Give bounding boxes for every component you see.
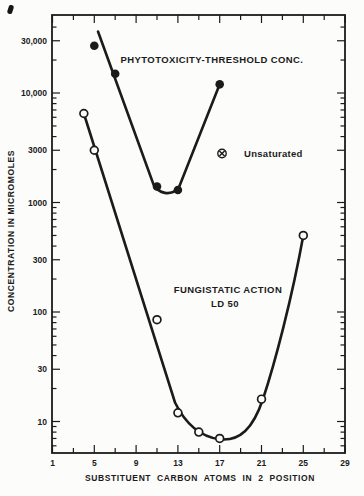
fungistatic-point xyxy=(80,110,88,118)
y-tick-label: 10 xyxy=(38,417,48,427)
y-tick-label: 10,000 xyxy=(21,88,47,98)
x-tick-label: 5 xyxy=(92,458,97,468)
y-axis-title: CONCENTRATION IN MICROMOLES xyxy=(6,150,16,312)
phytotoxicity-point xyxy=(90,41,99,50)
legend: Unsaturated xyxy=(218,148,303,159)
y-tick-label: 300 xyxy=(33,255,47,265)
fungistatic-point xyxy=(174,409,182,417)
y-tick-label: 3000 xyxy=(28,145,47,155)
x-tick-label: 21 xyxy=(257,458,267,468)
plot-area: 159131721252910301003001000300010,00030,… xyxy=(21,15,350,468)
phytotoxicity-point xyxy=(174,186,183,195)
fungistatic-point xyxy=(153,316,161,324)
phytotoxicity-point xyxy=(153,182,162,191)
legend-unsaturated-label: Unsaturated xyxy=(244,148,303,159)
fungistatic-point xyxy=(90,146,98,154)
x-tick-label: 1 xyxy=(50,458,55,468)
fungistatic-ld50-label: LD 50 xyxy=(211,298,239,309)
chart: 159131721252910301003001000300010,00030,… xyxy=(0,0,364,496)
fungistatic-point xyxy=(299,232,307,240)
x-axis-title: SUBSTITUENT CARBON ATOMS IN 2 POSITION xyxy=(85,473,315,483)
y-tick-label: 30 xyxy=(38,364,48,374)
x-tick-label: 25 xyxy=(299,458,309,468)
x-tick-label: 29 xyxy=(340,458,350,468)
phytotoxicity-point xyxy=(215,80,224,89)
y-tick-label: 1000 xyxy=(28,198,47,208)
x-tick-label: 13 xyxy=(173,458,183,468)
fungistatic-curve xyxy=(84,113,303,439)
y-tick-label: 30,000 xyxy=(21,36,47,46)
circled-x-marker-icon xyxy=(218,149,226,157)
fungistatic-point xyxy=(258,395,266,403)
y-tick-label: 100 xyxy=(33,307,47,317)
phytotoxicity-series-label: PHYTOTOXICITY-THRESHOLD CONC. xyxy=(121,54,304,65)
fungistatic-point xyxy=(195,428,203,436)
fungistatic-series-label: FUNGISTATIC ACTION xyxy=(174,284,282,295)
x-tick-label: 17 xyxy=(215,458,225,468)
phytotoxicity-point xyxy=(111,69,120,78)
fungistatic-point xyxy=(216,435,224,443)
x-tick-label: 9 xyxy=(134,458,139,468)
